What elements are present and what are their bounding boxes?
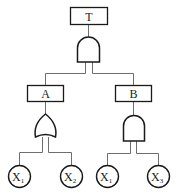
basic-event-subscript: 1 [21,177,25,185]
event-a: A [28,86,64,102]
fault-tree-diagram: T A B X1 X2 X1 X3 [0,0,176,196]
connector-gate-a [46,62,86,85]
basic-event-x1-b: X1 [97,166,119,188]
basic-event-x2-a: X2 [61,166,83,188]
event-a-label: A [41,87,50,101]
basic-event-subscript: 2 [73,177,77,185]
basic-event-subscript: 1 [109,177,113,185]
connector-and-x3 [137,141,159,165]
and-gate-icon [78,37,100,62]
event-b-label: B [129,87,137,101]
or-gate-icon [35,114,56,137]
top-event-label: T [85,10,93,24]
basic-event-base: X [12,170,21,184]
connector-or-x1 [20,137,43,165]
basic-event-subscript: 3 [160,177,164,185]
basic-event-x3-b: X3 [148,166,170,188]
event-b: B [116,86,152,102]
connector-or-x2 [49,137,72,165]
basic-event-base: X [100,170,109,184]
top-event: T [71,8,108,25]
basic-event-base: X [151,170,160,184]
and-gate-icon [124,116,145,142]
connector-and-x1 [108,141,131,165]
connector-gate-b [93,62,134,85]
basic-event-base: X [64,170,73,184]
basic-event-x1-a: X1 [9,166,31,188]
